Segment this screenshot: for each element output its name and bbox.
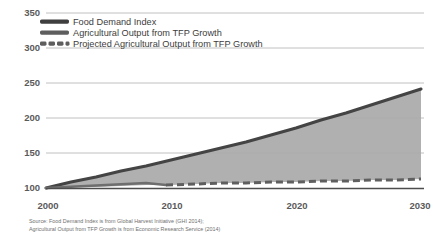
legend-item-agricultural-output: Agricultural Output from TFP Growth <box>40 28 222 38</box>
x-tick-2030: 2030 <box>409 200 430 211</box>
legend-dash-1 <box>40 42 47 46</box>
legend-label-agricultural-output: Agricultural Output from TFP Growth <box>73 28 222 38</box>
x-tick-2000: 2000 <box>37 200 58 211</box>
y-tick-250: 250 <box>24 77 40 88</box>
x-axis-labels: 2000 2010 2020 2030 <box>37 200 430 211</box>
legend-dash-4 <box>66 42 70 46</box>
chart-container: 350 300 250 200 150 100 2000 2010 2020 2… <box>0 0 448 247</box>
legend-swatch-solid-gray <box>40 31 69 35</box>
legend-dash-2 <box>49 42 56 46</box>
shaded-gap-region <box>46 89 421 188</box>
legend-label-food-demand-index: Food Demand Index <box>73 17 157 27</box>
legend-label-projected-agricultural-output: Projected Agricultural Output from TFP G… <box>73 39 263 49</box>
legend-swatch-dashed-gray <box>40 42 70 46</box>
chart-legend: Food Demand Index Agricultural Output fr… <box>40 17 263 49</box>
gap-fill <box>46 89 421 188</box>
y-axis-labels: 350 300 250 200 150 100 <box>24 7 40 193</box>
legend-dash-3 <box>57 42 64 46</box>
y-tick-100: 100 <box>24 182 40 193</box>
legend-swatch-solid-dark <box>40 20 69 24</box>
y-tick-200: 200 <box>24 112 40 123</box>
legend-item-projected-agricultural-output: Projected Agricultural Output from TFP G… <box>40 39 263 49</box>
source-note-line-1: Source: Food Demand Index is from Global… <box>29 218 204 224</box>
y-tick-350: 350 <box>24 7 40 18</box>
y-tick-150: 150 <box>24 147 40 158</box>
legend-item-food-demand-index: Food Demand Index <box>40 17 157 27</box>
line-chart: 350 300 250 200 150 100 2000 2010 2020 2… <box>0 0 448 247</box>
y-tick-300: 300 <box>24 42 40 53</box>
source-note: Source: Food Demand Index is from Global… <box>29 218 220 232</box>
x-tick-2020: 2020 <box>286 200 307 211</box>
source-note-line-2: Agricultural Output from TFP Growth is f… <box>29 226 220 232</box>
x-tick-2010: 2010 <box>161 200 182 211</box>
